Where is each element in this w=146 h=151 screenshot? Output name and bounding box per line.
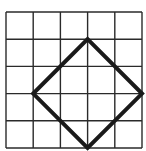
- grid-lines: [6, 12, 142, 148]
- grid-diagram: [0, 0, 146, 151]
